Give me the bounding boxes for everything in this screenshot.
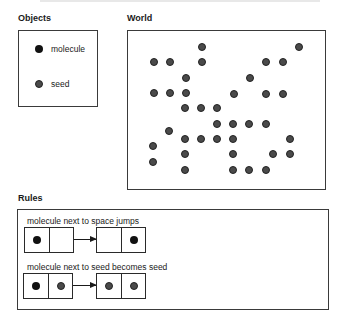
seed-label: seed — [51, 79, 69, 89]
rule-2-before[interactable] — [23, 273, 73, 299]
rules-heading: Rules — [18, 193, 43, 203]
world-seed-dot[interactable] — [181, 166, 189, 174]
rule-1-after-cell-2[interactable] — [121, 228, 145, 252]
rule-2-before-cell-1[interactable] — [24, 274, 48, 298]
world-seed-dot[interactable] — [229, 120, 237, 128]
seed-icon — [105, 282, 113, 290]
rule-1-before-cell-1[interactable] — [25, 228, 49, 252]
world-seed-dot[interactable] — [269, 150, 277, 158]
rule-1-after-cell-1[interactable] — [97, 228, 121, 252]
seed-icon[interactable] — [35, 80, 43, 88]
rules-panel: molecule next to space jumps molecule ne… — [17, 209, 329, 310]
world-seed-dot[interactable] — [149, 142, 157, 150]
world-seed-dot[interactable] — [198, 58, 206, 66]
world-seed-dot[interactable] — [150, 58, 158, 66]
world-seed-dot[interactable] — [181, 150, 189, 158]
world-seed-dot[interactable] — [181, 104, 189, 112]
world-seed-dot[interactable] — [165, 127, 173, 135]
rule-2-after-cell-1[interactable] — [97, 274, 121, 298]
world-seed-dot[interactable] — [198, 43, 206, 51]
rule-1-before-cell-2[interactable] — [49, 228, 73, 252]
rule-2-arrow-icon — [73, 285, 96, 286]
cropped-caption-strip — [40, 0, 320, 2]
objects-panel: molecule seed — [18, 30, 98, 107]
seed-icon — [130, 282, 138, 290]
world-seed-dot[interactable] — [182, 89, 190, 97]
world-seed-dot[interactable] — [262, 120, 270, 128]
molecule-icon — [32, 282, 40, 290]
rule-1-after[interactable] — [96, 227, 146, 253]
world-seed-dot[interactable] — [197, 135, 205, 143]
world-seed-dot[interactable] — [213, 135, 221, 143]
world-seed-dot[interactable] — [286, 150, 294, 158]
world-seed-dot[interactable] — [166, 89, 174, 97]
molecule-icon[interactable] — [35, 45, 43, 53]
world-seed-dot[interactable] — [197, 104, 205, 112]
rule-2-label: molecule next to seed becomes seed — [27, 262, 167, 272]
world-heading: World — [127, 13, 152, 23]
world-seed-dot[interactable] — [229, 135, 237, 143]
world-seed-dot[interactable] — [181, 135, 189, 143]
world-seed-dot[interactable] — [229, 150, 237, 158]
world-seed-dot[interactable] — [279, 90, 287, 98]
world-seed-dot[interactable] — [213, 120, 221, 128]
world-seed-dot[interactable] — [262, 90, 270, 98]
molecule-icon — [33, 236, 41, 244]
world-seed-dot[interactable] — [182, 74, 190, 82]
rule-2-before-cell-2[interactable] — [48, 274, 72, 298]
world-seed-dot[interactable] — [295, 43, 303, 51]
rule-1-arrow-icon — [74, 239, 96, 240]
world-seed-dot[interactable] — [286, 135, 294, 143]
world-seed-dot[interactable] — [262, 58, 270, 66]
rule-2-after[interactable] — [96, 273, 146, 299]
world-seed-dot[interactable] — [245, 120, 253, 128]
world-seed-dot[interactable] — [262, 166, 270, 174]
rule-1-label: molecule next to space jumps — [27, 216, 139, 226]
world-canvas[interactable] — [127, 30, 326, 190]
molecule-label: molecule — [51, 44, 85, 54]
rule-2-after-cell-2[interactable] — [121, 274, 145, 298]
world-seed-dot[interactable] — [245, 166, 253, 174]
world-seed-dot[interactable] — [229, 166, 237, 174]
rule-1-before[interactable] — [24, 227, 74, 253]
world-seed-dot[interactable] — [246, 74, 254, 82]
world-seed-dot[interactable] — [230, 90, 238, 98]
world-seed-dot[interactable] — [150, 89, 158, 97]
objects-heading: Objects — [18, 13, 51, 23]
world-seed-dot[interactable] — [166, 58, 174, 66]
world-seed-dot[interactable] — [149, 158, 157, 166]
world-seed-dot[interactable] — [279, 58, 287, 66]
molecule-icon — [130, 236, 138, 244]
world-seed-dot[interactable] — [213, 104, 221, 112]
seed-icon — [57, 282, 65, 290]
